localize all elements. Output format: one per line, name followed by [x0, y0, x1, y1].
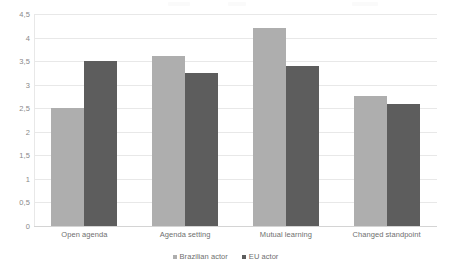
legend-item: Brazilian actor	[173, 252, 228, 261]
gridline	[34, 14, 437, 15]
y-tick-label: 4,5	[0, 10, 30, 19]
x-tick-label: Changed standpoint	[353, 230, 421, 239]
legend-color-swatch	[173, 255, 177, 259]
bar	[185, 73, 218, 226]
bar	[84, 61, 117, 226]
y-tick-label: 3,5	[0, 57, 30, 66]
legend-color-swatch	[242, 255, 246, 259]
y-tick-label: 2	[0, 127, 30, 136]
gridline	[34, 38, 437, 39]
y-axis: 4,543,532,521,510,50	[0, 14, 30, 226]
plot-left-edge	[34, 14, 35, 226]
axis-baseline	[34, 226, 437, 227]
artifact-smudge-right	[352, 2, 378, 6]
bar	[286, 66, 319, 226]
legend-label: EU actor	[249, 252, 279, 261]
x-tick-label: Mutual learning	[260, 230, 312, 239]
cropped-title-artifact	[0, 0, 451, 9]
x-axis-category-labels: Open agendaAgenda settingMutual learning…	[34, 230, 437, 244]
y-tick-label: 1,5	[0, 151, 30, 160]
y-tick-label: 0	[0, 222, 30, 231]
y-tick-label: 4	[0, 33, 30, 42]
y-tick-label: 1	[0, 174, 30, 183]
legend-item: EU actor	[242, 252, 279, 261]
bar-chart: 4,543,532,521,510,50 Open agendaAgenda s…	[0, 0, 451, 271]
bar	[51, 108, 84, 226]
artifact-smudge-left	[168, 2, 190, 6]
y-tick-label: 0,5	[0, 198, 30, 207]
chart-legend: Brazilian actorEU actor	[0, 252, 451, 261]
bar	[354, 96, 387, 226]
bar	[387, 104, 420, 226]
x-tick-label: Open agenda	[61, 230, 107, 239]
y-tick-label: 2,5	[0, 104, 30, 113]
plot-area	[34, 14, 437, 226]
artifact-smudge-center	[228, 2, 246, 6]
bar	[152, 56, 185, 226]
y-tick-label: 3	[0, 80, 30, 89]
legend-label: Brazilian actor	[180, 252, 228, 261]
x-tick-label: Agenda setting	[160, 230, 211, 239]
bar	[253, 28, 286, 226]
